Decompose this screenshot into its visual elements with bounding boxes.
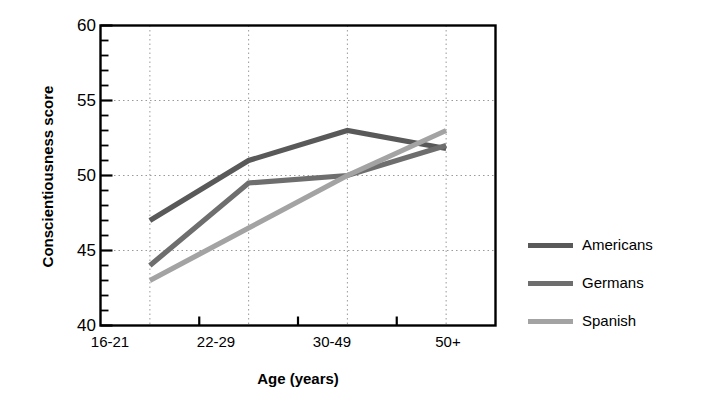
chart-figure: Conscientiousness score Age (years) 60 5… [0, 0, 706, 406]
legend-item-americans[interactable]: Americans [528, 236, 653, 254]
plot-area [0, 0, 706, 406]
x-axis-ticks [199, 317, 397, 326]
legend-swatch-icon [528, 319, 573, 324]
legend-label: Americans [582, 236, 653, 254]
legend-item-germans[interactable]: Germans [528, 274, 653, 292]
legend-swatch-icon [528, 281, 573, 286]
legend-label: Spanish [582, 312, 636, 330]
chart-legend: AmericansGermansSpanish [528, 236, 653, 330]
data-series-lines [150, 131, 446, 281]
gridlines [101, 26, 496, 326]
legend-label: Germans [582, 274, 644, 292]
legend-item-spanish[interactable]: Spanish [528, 312, 653, 330]
legend-swatch-icon [528, 243, 573, 248]
